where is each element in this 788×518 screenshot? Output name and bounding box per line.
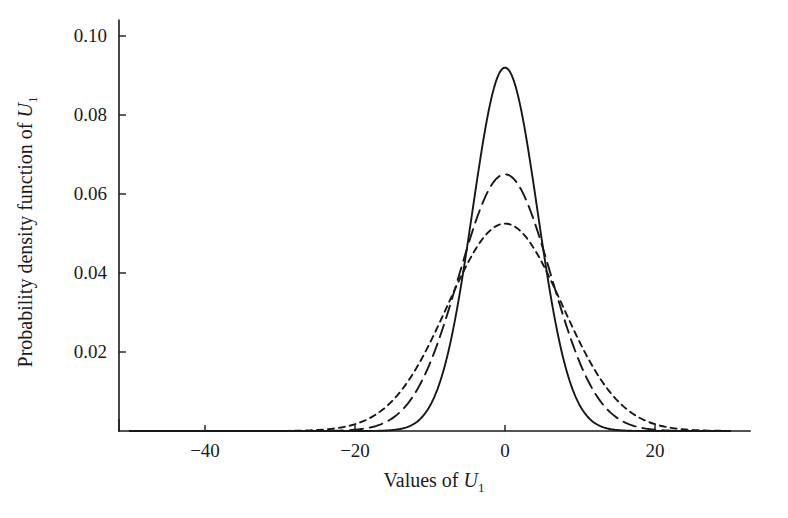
y-tick-label: 0.04: [74, 262, 108, 283]
figure-container: 0.020.040.060.080.10−40−20020 Values of …: [0, 0, 788, 518]
x-tick-label: 0: [500, 440, 510, 461]
y-axis-title: Probability density function of U1: [14, 97, 40, 368]
density-curve-short-dash: [130, 224, 730, 431]
y-tick-label: 0.06: [74, 183, 107, 204]
probability-density-plot: 0.020.040.060.080.10−40−20020 Values of …: [0, 0, 788, 518]
x-tick-label: −40: [190, 440, 220, 461]
y-tick-label: 0.02: [74, 341, 107, 362]
curves-group: [130, 68, 730, 431]
y-tick-label: 0.10: [74, 25, 107, 46]
density-curve-long-dash: [130, 174, 730, 431]
x-tick-label: −20: [340, 440, 370, 461]
x-axis-title: Values of U1: [384, 469, 485, 495]
density-curve-solid: [130, 68, 730, 431]
axes-group: [119, 20, 750, 431]
y-tick-label: 0.08: [74, 104, 107, 125]
x-tick-label: 20: [646, 440, 665, 461]
